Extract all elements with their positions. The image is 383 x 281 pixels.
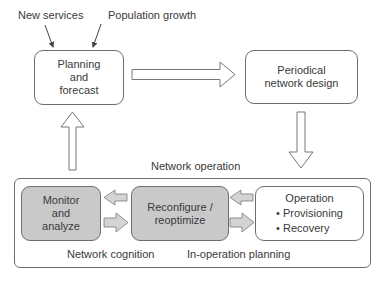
- down-block-arrow-icon: [289, 112, 313, 168]
- reconfigure-line-1: Reconfigure /: [147, 201, 212, 214]
- planning-line-2: and: [70, 71, 88, 84]
- periodical-network-design-box: Periodical network design: [245, 50, 358, 104]
- network-cognition-label: Network cognition: [67, 248, 154, 261]
- monitor-analyze-box: Monitor and analyze: [21, 186, 101, 241]
- operation-box: Operation Provisioning Recovery: [255, 186, 364, 241]
- periodical-line-2: network design: [265, 77, 339, 90]
- monitor-line-1: Monitor: [43, 194, 80, 207]
- in-operation-planning-label: In-operation planning: [187, 248, 290, 261]
- right-block-arrow-icon: [132, 62, 235, 87]
- operation-item-recovery: Recovery: [276, 222, 343, 235]
- network-operation-title: Network operation: [151, 160, 240, 173]
- population-growth-label: Population growth: [108, 9, 196, 22]
- periodical-line-1: Periodical: [277, 64, 325, 77]
- monitor-line-2: and: [52, 207, 70, 220]
- new-services-arrow-icon: [45, 25, 53, 47]
- population-growth-arrow-icon: [93, 24, 101, 47]
- up-block-arrow-icon: [61, 112, 84, 170]
- reconfigure-line-2: reoptimize: [155, 214, 206, 227]
- operation-title: Operation: [276, 192, 343, 205]
- reconfigure-reoptimize-box: Reconfigure / reoptimize: [131, 186, 229, 241]
- new-services-label: New services: [18, 9, 83, 22]
- diagram-canvas: New services Population growth Planning …: [0, 0, 383, 281]
- planning-line-3: forecast: [59, 84, 98, 97]
- monitor-line-3: analyze: [42, 220, 80, 233]
- planning-forecast-box: Planning and forecast: [34, 50, 124, 105]
- operation-item-provisioning: Provisioning: [276, 207, 343, 220]
- planning-line-1: Planning: [58, 58, 101, 71]
